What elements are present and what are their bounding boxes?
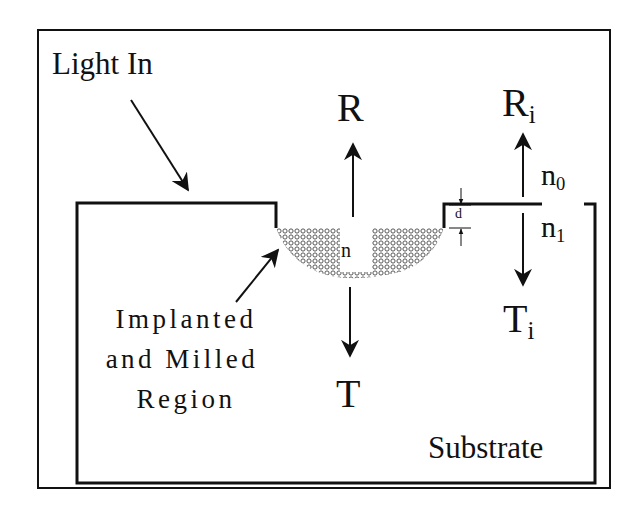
- region-label-line-3: Region: [86, 386, 286, 413]
- light-in-arrow: [131, 100, 188, 190]
- index-below-sub: 1: [556, 225, 565, 246]
- region-label-line-2: and Milled: [76, 346, 288, 373]
- implanted-milled-region: [276, 228, 444, 278]
- index-above-base: n: [541, 158, 556, 191]
- light-in-label: Light In: [52, 48, 153, 79]
- interface-transmitted-sub: i: [527, 317, 534, 344]
- index-below-base: n: [541, 210, 556, 243]
- substrate-label: Substrate: [428, 432, 543, 463]
- region-label-line-1: Implanted: [86, 306, 286, 333]
- index-above-sub: 0: [556, 173, 565, 194]
- reflected-label: R: [337, 88, 364, 128]
- interface-transmitted-label: Ti: [503, 299, 534, 339]
- pit-index-label: n: [341, 240, 351, 260]
- interface-reflected-base: R: [502, 80, 529, 125]
- diagram-canvas: Light In R T n d Ri Ti n0 n1 Implanted a…: [0, 0, 636, 519]
- index-above-label: n0: [541, 160, 565, 190]
- transmitted-label: T: [336, 374, 360, 414]
- interface-transmitted-base: T: [503, 296, 527, 341]
- index-below-label: n1: [541, 212, 565, 242]
- interface-reflected-label: Ri: [502, 83, 536, 123]
- interface-reflected-sub: i: [529, 101, 536, 128]
- depth-label: d: [455, 207, 462, 221]
- region-pointer-arrow: [236, 250, 278, 302]
